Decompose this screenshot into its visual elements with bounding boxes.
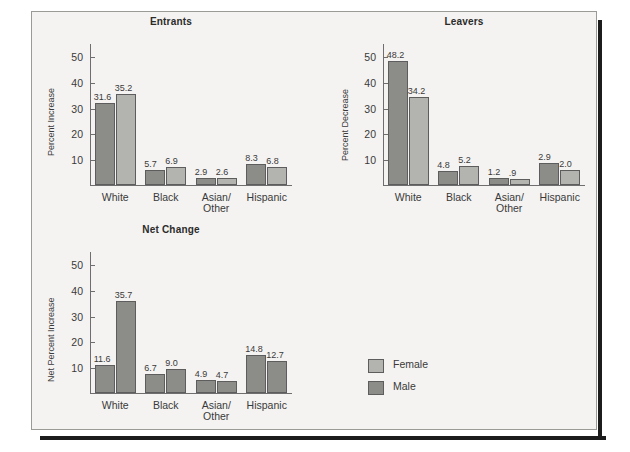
y-axis-line (90, 252, 91, 394)
y-axis-tick-label: 10 (71, 362, 83, 374)
x-axis-category-label: Black (141, 400, 192, 411)
bar-value-label: 2.6 (216, 167, 229, 177)
bar (459, 166, 479, 185)
chart-title: Leavers (343, 16, 585, 27)
frame-shadow-bottom (40, 436, 606, 440)
y-axis-tick (91, 83, 95, 84)
x-axis-category-label: White (383, 192, 434, 203)
x-axis-category-label: Asian/ Other (191, 192, 242, 214)
bar (95, 103, 115, 185)
y-axis-tick-label: 50 (71, 51, 83, 63)
bar (95, 365, 115, 393)
y-axis-line (90, 44, 91, 186)
bar (246, 164, 266, 185)
bar-value-label: .9 (509, 168, 517, 178)
x-axis-category-label: Hispanic (242, 400, 293, 411)
bar-value-label: 35.2 (115, 83, 133, 93)
x-axis-category-label: Black (434, 192, 485, 203)
bar (217, 178, 237, 185)
y-axis-tick-label: 10 (364, 154, 376, 166)
bar (116, 94, 136, 185)
bar (560, 170, 580, 185)
y-axis-tick-label: 40 (71, 285, 83, 297)
y-axis-label: Net Percent Increase (46, 297, 56, 382)
y-axis-tick-label: 50 (364, 51, 376, 63)
bar (116, 301, 136, 393)
x-axis-line (90, 393, 292, 394)
bar (145, 170, 165, 185)
chart-title: Entrants (50, 16, 292, 27)
y-axis-tick-label: 20 (364, 128, 376, 140)
bar-value-label: 2.9 (195, 167, 208, 177)
y-axis-tick-label: 50 (71, 259, 83, 271)
y-axis-label: Percent Increase (46, 88, 56, 156)
bar (409, 97, 429, 185)
bar (196, 178, 216, 185)
bar-value-label: 4.8 (437, 160, 450, 170)
y-axis-tick (91, 291, 95, 292)
y-axis-tick (91, 57, 95, 58)
bar-value-label: 5.2 (458, 155, 471, 165)
bar-value-label: 31.6 (94, 92, 112, 102)
bar (196, 380, 216, 393)
y-axis-tick (91, 317, 95, 318)
chart-panel-net-change: Net Change102030405011.635.76.79.04.94.7… (34, 224, 304, 424)
y-axis-line (383, 44, 384, 186)
bar-value-label: 9.0 (165, 358, 178, 368)
bar (539, 163, 559, 185)
bar-value-label: 6.9 (165, 156, 178, 166)
bar (246, 355, 266, 393)
bar-value-label: 6.7 (144, 363, 157, 373)
plot-area: 102030405011.635.76.79.04.94.714.812.7 (90, 252, 292, 394)
y-axis-tick-label: 10 (71, 154, 83, 166)
bar (166, 369, 186, 393)
y-axis-tick-label: 30 (71, 311, 83, 323)
y-axis-tick (91, 342, 95, 343)
bar-value-label: 34.2 (408, 86, 426, 96)
y-axis-tick-label: 40 (364, 77, 376, 89)
bar-value-label: 4.9 (195, 369, 208, 379)
bar-value-label: 5.7 (144, 159, 157, 169)
x-axis-category-label: White (90, 400, 141, 411)
plot-area: 102030405031.635.25.76.92.92.68.36.8 (90, 44, 292, 186)
legend-label: Male (393, 380, 416, 392)
bar-value-label: 12.7 (266, 350, 284, 360)
x-axis-category-label: White (90, 192, 141, 203)
bar (267, 167, 287, 185)
y-axis-tick-label: 20 (71, 336, 83, 348)
y-axis-tick-label: 40 (71, 77, 83, 89)
bar (438, 171, 458, 185)
legend-swatch (368, 381, 384, 395)
bar (388, 61, 408, 185)
legend-label: Female (393, 358, 428, 370)
bar (166, 167, 186, 185)
x-axis-category-label: Black (141, 192, 192, 203)
bar-value-label: 1.2 (488, 167, 501, 177)
y-axis-tick (91, 265, 95, 266)
bar-value-label: 14.8 (245, 344, 263, 354)
y-axis-label: Percent Decrease (340, 89, 350, 161)
bar (145, 374, 165, 393)
figure-page: Entrants102030405031.635.25.76.92.92.68.… (0, 0, 630, 452)
chart-title: Net Change (50, 224, 292, 235)
x-axis-category-label: Hispanic (535, 192, 586, 203)
chart-panel-entrants: Entrants102030405031.635.25.76.92.92.68.… (34, 16, 304, 216)
bar (510, 179, 530, 185)
y-axis-tick-label: 30 (364, 103, 376, 115)
bar-value-label: 6.8 (266, 156, 279, 166)
y-axis-tick-label: 30 (71, 103, 83, 115)
x-axis-line (383, 185, 585, 186)
legend-swatch (368, 359, 384, 373)
x-axis-category-label: Hispanic (242, 192, 293, 203)
bar-value-label: 4.7 (216, 370, 229, 380)
x-axis-category-label: Asian/ Other (191, 400, 242, 422)
bar (489, 178, 509, 185)
bar-value-label: 2.0 (559, 159, 572, 169)
y-axis-tick-label: 20 (71, 128, 83, 140)
bar (217, 381, 237, 393)
chart-panel-leavers: Leavers102030405048.234.24.85.21.2.92.92… (330, 16, 600, 216)
bar-value-label: 2.9 (538, 152, 551, 162)
bar-value-label: 8.3 (245, 153, 258, 163)
x-axis-line (90, 185, 292, 186)
plot-area: 102030405048.234.24.85.21.2.92.92.0 (383, 44, 585, 186)
